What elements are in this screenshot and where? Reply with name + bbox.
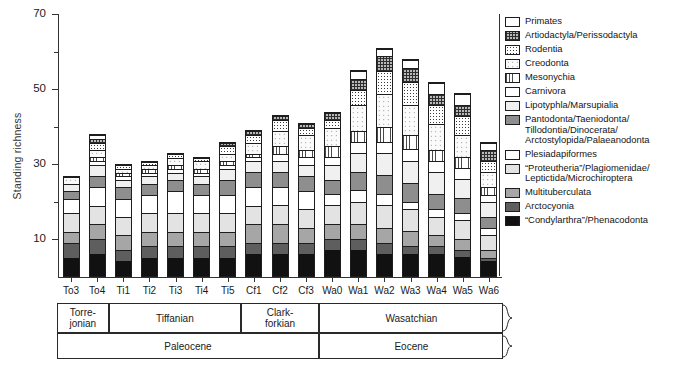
legend-item[interactable]: “Condylarthra”/Phenacodonta [505, 215, 678, 226]
x-tick [123, 277, 124, 282]
bar-segment [377, 127, 392, 142]
bar-segment [429, 161, 444, 172]
bar-segment [377, 56, 392, 71]
bar-segment [220, 213, 235, 232]
legend-swatch-icon [505, 150, 520, 160]
bar-segment [429, 217, 444, 236]
bar-segment [455, 135, 470, 157]
bar-segment [351, 131, 366, 142]
bar-segment [377, 254, 392, 276]
bar-segment [403, 209, 418, 231]
bar-segment [325, 224, 340, 239]
bar-segment [325, 120, 340, 127]
bar-segment [481, 150, 496, 161]
bar-segment [194, 176, 209, 183]
legend-swatch-icon [505, 73, 520, 83]
bar-segment [429, 235, 444, 246]
bar-segment [64, 199, 79, 214]
legend-item[interactable]: Pantodonta/Taeniodonta/Tillodontia/Dinoc… [505, 114, 678, 146]
x-tick [384, 277, 385, 282]
bar-segment [220, 154, 235, 161]
legend-item[interactable]: Plesiadapiformes [505, 149, 678, 160]
legend-item[interactable]: Mesonychia [505, 72, 678, 83]
x-tick [280, 277, 281, 282]
bar-segment [194, 246, 209, 257]
legend-item[interactable]: Rodentia [505, 44, 678, 55]
legend-item[interactable]: Multituberculata [505, 187, 678, 198]
bar-segment [377, 175, 392, 194]
bar-Ti2 [141, 161, 158, 277]
legend-label: Plesiadapiformes [525, 149, 597, 160]
x-tick [411, 277, 412, 282]
legend-swatch-icon [505, 17, 520, 27]
bar-segment [351, 79, 366, 90]
bar-segment [64, 232, 79, 243]
x-tick [176, 277, 177, 282]
legend-item[interactable]: Artiodactyla/Perissodactyla [505, 30, 678, 41]
bar-segment [455, 94, 470, 105]
bar-To4 [89, 134, 106, 277]
bar-segment [351, 190, 366, 201]
legend-label: Carnivora [525, 86, 566, 97]
bar-segment [325, 250, 340, 276]
legend-label: Rodentia [525, 44, 563, 55]
bar-Wa4 [428, 82, 445, 277]
legend-item[interactable]: Primates [505, 16, 678, 27]
bar-Ti4 [193, 157, 210, 277]
x-tick [254, 277, 255, 282]
bar-segment [351, 250, 366, 276]
bar-segment [455, 239, 470, 250]
legend-item[interactable]: Carnivora [505, 86, 678, 97]
bar-segment [299, 128, 314, 135]
bar-segment [325, 205, 340, 224]
bar-segment [377, 205, 392, 227]
legend-label: Lipotyphla/Marsupialia [525, 100, 618, 111]
bar-segment [429, 124, 444, 150]
x-tick [228, 277, 229, 282]
bar-segment [403, 135, 418, 150]
bar-segment [142, 232, 157, 247]
legend-item[interactable]: Lipotyphla/Marsupialia [505, 100, 678, 111]
bar-segment [90, 254, 105, 276]
legend-item[interactable]: Creodonta [505, 58, 678, 69]
bar-To3 [63, 176, 80, 277]
bar-Ti1 [115, 164, 132, 277]
x-tick [71, 277, 72, 282]
bar-segment [403, 60, 418, 67]
bar-segment [246, 254, 261, 276]
strat-band: Clark-forkian [241, 303, 320, 333]
legend-swatch-icon [505, 31, 520, 41]
bar-Cf2 [272, 115, 289, 277]
bar-segment [403, 105, 418, 135]
bar-segment [273, 254, 288, 276]
bar-segment [142, 195, 157, 213]
bar-Wa6 [480, 142, 497, 277]
bar-segment [194, 213, 209, 231]
bar-segment [273, 243, 288, 254]
bar-segment [429, 83, 444, 94]
bar-segment [403, 183, 418, 202]
plot-area [58, 14, 502, 277]
bar-segment [273, 172, 288, 187]
bar-Wa2 [376, 48, 393, 277]
bar-segment [90, 143, 105, 150]
bar-segment [351, 71, 366, 78]
bar-segment [299, 209, 314, 228]
bar-segment [168, 173, 183, 180]
bar-Cf1 [245, 130, 262, 277]
legend-item[interactable]: Arctocyonia [505, 201, 678, 212]
bar-segment [116, 261, 131, 276]
bar-segment [220, 232, 235, 247]
legend-item[interactable]: “Proteutheria”/Plagiomenidae/Leptictida/… [505, 163, 678, 184]
legend-label: Creodonta [525, 58, 569, 69]
bar-segment [403, 68, 418, 83]
bar-segment [116, 199, 131, 217]
bar-segment [168, 158, 183, 165]
legend-swatch-icon [505, 87, 520, 97]
y-tick-label: 10 [20, 233, 46, 245]
bar-segment [246, 161, 261, 172]
bar-segment [481, 161, 496, 172]
bar-segment [299, 150, 314, 157]
bar-segment [299, 176, 314, 191]
bar-segment [220, 146, 235, 153]
